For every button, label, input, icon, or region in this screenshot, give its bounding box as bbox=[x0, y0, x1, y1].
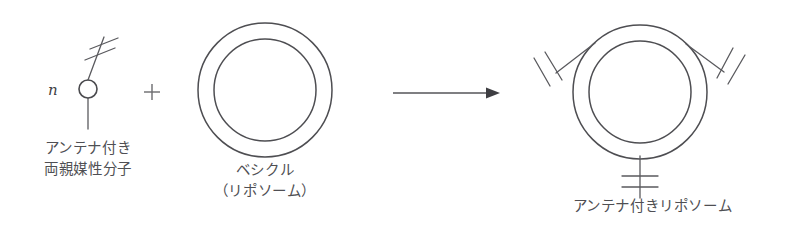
caption-amphiphile-line1: アンテナ付き bbox=[8, 138, 168, 159]
antenna-amphiphile-icon bbox=[79, 37, 118, 129]
antenna-crossbar-lower bbox=[85, 48, 115, 60]
arrow-head bbox=[486, 88, 500, 99]
amphiphile-head-circle bbox=[79, 80, 97, 98]
plus-operator bbox=[144, 84, 160, 100]
liposome-antenna-upper-right bbox=[686, 44, 745, 84]
liposome-inner-ring bbox=[589, 41, 691, 143]
caption-antenna-liposome: アンテナ付きリポソーム bbox=[520, 196, 785, 217]
antenna-mast-upper-right bbox=[686, 44, 724, 72]
liposome-antenna-bottom bbox=[622, 156, 658, 198]
stoichiometry-label: n bbox=[48, 81, 58, 99]
caption-amphiphile-line2: 両親媒性分子 bbox=[8, 159, 168, 180]
antenna-crossbar-upper-left-outer bbox=[534, 58, 550, 86]
vesicle-inner-ring bbox=[214, 39, 316, 141]
caption-vesicle-line1: ベシクル bbox=[185, 160, 345, 181]
vesicle-outer-ring bbox=[198, 23, 332, 157]
antenna-crossbar-upper bbox=[90, 38, 118, 49]
reaction-arrow bbox=[393, 88, 500, 99]
antenna-crossbar-upper-left-inner bbox=[545, 52, 562, 80]
diagram-canvas: n アンテナ付き 両親媒性分子 ベシクル （リポソーム） アンテナ付きリポソーム bbox=[0, 0, 785, 240]
caption-amphiphile: アンテナ付き 両親媒性分子 bbox=[8, 138, 168, 179]
antenna-crossbar-upper-right-outer bbox=[728, 55, 745, 84]
vesicle-icon bbox=[198, 23, 332, 157]
caption-vesicle-line2: （リポソーム） bbox=[185, 181, 345, 202]
liposome-antenna-upper-left bbox=[534, 43, 595, 86]
antenna-mast-upper-left bbox=[556, 43, 595, 73]
caption-vesicle: ベシクル （リポソーム） bbox=[185, 160, 345, 201]
antenna-liposome-icon bbox=[534, 25, 745, 198]
antenna-crossbar-upper-right-inner bbox=[717, 48, 733, 78]
